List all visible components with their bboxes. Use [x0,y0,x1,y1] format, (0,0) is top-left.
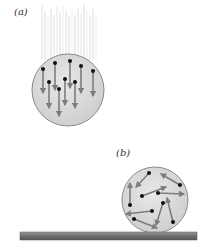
molecule-dot-icon [150,209,154,213]
molecule-dot-icon [171,220,175,224]
molecule-dot-icon [79,64,83,68]
molecule-dot-icon [140,194,144,198]
molecule-dot-icon [73,80,77,84]
molecule-dot-icon [161,201,165,205]
sphere [122,167,188,233]
molecule-dot-icon [57,87,61,91]
molecule-dot-icon [156,191,160,195]
surface-bar [20,232,197,240]
sphere-diagram [0,0,201,251]
molecule-dot-icon [132,217,136,221]
molecule-dot-icon [63,77,67,81]
velocity-arrow-icon [158,193,184,194]
molecule-dot-icon [178,183,182,187]
molecule-dot-icon [47,80,51,84]
resting-sphere [122,167,188,233]
molecule-dot-icon [41,67,45,71]
molecule-dot-icon [91,69,95,73]
molecule-dot-icon [147,171,151,175]
molecule-dot-icon [128,203,132,207]
falling-sphere [32,54,104,126]
molecule-dot-icon [53,61,57,65]
motion-streaks [42,5,96,60]
molecule-dot-icon [68,59,72,63]
